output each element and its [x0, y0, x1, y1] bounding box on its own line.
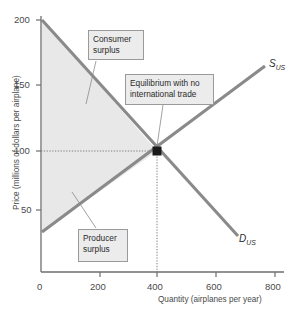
- consumer-surplus-callout-line1: Consumer: [93, 34, 139, 45]
- supply-curve-label: SUS: [269, 58, 285, 71]
- demand-curve-label-sub: US: [246, 239, 255, 246]
- consumer-surplus-callout-line2: surplus: [93, 45, 139, 56]
- x-tick-label-400: 400: [147, 281, 163, 292]
- x-tick-label-200: 200: [90, 281, 106, 292]
- supply-curve-label-sub: US: [276, 64, 285, 71]
- consumer-surplus-callout: Consumer surplus: [88, 30, 144, 60]
- x-tick-label-600: 600: [206, 281, 222, 292]
- producer-surplus-callout-line1: Producer: [83, 233, 123, 244]
- supply-curve-label-letter: S: [269, 58, 276, 69]
- y-tick-label-50: 50: [21, 204, 32, 215]
- y-tick-label-200: 200: [14, 14, 30, 25]
- equilibrium-marker: [153, 147, 162, 156]
- producer-surplus-callout-line2: surplus: [83, 244, 123, 255]
- x-tick-label-800: 800: [265, 281, 281, 292]
- x-tick-label-0: 0: [37, 281, 42, 292]
- equilibrium-callout: Equilibrium with no international trade: [125, 74, 214, 105]
- x-axis-title: Quantity (airplanes per year): [158, 295, 262, 304]
- equilibrium-leader-line: [157, 105, 163, 146]
- equilibrium-callout-line2: international trade: [130, 89, 209, 100]
- chart-figure: 200 150 100 50 0 200 400 600 800 Price (…: [0, 0, 298, 312]
- y-axis-title: Price (millions of dollars per airplane): [12, 75, 21, 210]
- producer-surplus-callout: Producer surplus: [78, 229, 128, 262]
- chart-canvas: [0, 0, 298, 312]
- demand-curve-label: DUS: [239, 233, 256, 246]
- equilibrium-callout-line1: Equilibrium with no: [130, 78, 209, 89]
